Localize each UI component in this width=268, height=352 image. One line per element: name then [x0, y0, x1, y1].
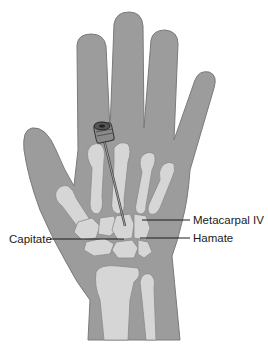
- label-metacarpal-iv: Metacarpal IV: [193, 214, 264, 226]
- carpal-lunate: [112, 240, 138, 258]
- hand-illustration: [0, 0, 268, 352]
- label-capitate: Capitate: [9, 233, 52, 245]
- label-hamate: Hamate: [193, 232, 233, 244]
